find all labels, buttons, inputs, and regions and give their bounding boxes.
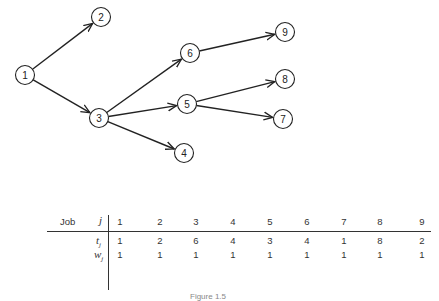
w-value-cell: 1 (186, 249, 206, 260)
svg-text:2: 2 (98, 12, 104, 23)
node-4: 4 (175, 144, 194, 163)
node-8: 8 (276, 70, 295, 89)
t-value-cell: 2 (150, 235, 170, 246)
t-value-cell: 4 (297, 235, 317, 246)
job-label: Job (60, 216, 75, 227)
figure-caption: Figure 1.5 (190, 292, 226, 301)
t-value-cell: 6 (186, 235, 206, 246)
edge-3-to-5 (108, 106, 176, 117)
job-number-cell: 5 (260, 216, 280, 227)
w-value-cell: 1 (412, 249, 432, 260)
svg-text:6: 6 (187, 48, 193, 59)
svg-text:8: 8 (282, 74, 288, 85)
job-number-cell: 6 (297, 216, 317, 227)
w-value-cell: 1 (260, 249, 280, 260)
precedence-graph: 123456789 (0, 0, 439, 200)
job-number-cell: 1 (110, 216, 130, 227)
node-6: 6 (181, 44, 200, 63)
table-vertical-rule (108, 215, 109, 290)
w-value-cell: 1 (370, 249, 390, 260)
edge-1-to-2 (33, 23, 93, 69)
t-row-label: tj (96, 234, 101, 249)
node-9: 9 (276, 23, 295, 42)
job-number-cell: 2 (150, 216, 170, 227)
edge-3-to-4 (108, 122, 175, 149)
w-value-cell: 1 (297, 249, 317, 260)
edge-5-to-7 (196, 105, 272, 117)
svg-text:1: 1 (22, 70, 28, 81)
t-value-cell: 2 (412, 235, 432, 246)
svg-text:5: 5 (184, 99, 190, 110)
job-number-cell: 4 (223, 216, 243, 227)
w-row-label: wj (94, 248, 103, 263)
node-2: 2 (92, 8, 111, 27)
job-number-cell: 8 (370, 216, 390, 227)
node-1: 1 (16, 66, 35, 85)
j-header: j (99, 214, 102, 226)
t-value-cell: 1 (334, 235, 354, 246)
edge-3-to-6 (107, 59, 182, 112)
t-value-cell: 3 (260, 235, 280, 246)
edge-6-to-9 (199, 34, 274, 51)
w-value-cell: 1 (223, 249, 243, 260)
w-value-cell: 1 (334, 249, 354, 260)
svg-text:7: 7 (280, 114, 286, 125)
w-value-cell: 1 (110, 249, 130, 260)
job-number-cell: 7 (334, 216, 354, 227)
t-value-cell: 4 (223, 235, 243, 246)
edge-5-to-8 (196, 82, 275, 102)
job-number-cell: 9 (412, 216, 432, 227)
node-5: 5 (178, 95, 197, 114)
node-3: 3 (90, 109, 109, 128)
t-value-cell: 1 (110, 235, 130, 246)
t-value-cell: 8 (370, 235, 390, 246)
edge-1-to-3 (33, 80, 90, 113)
node-7: 7 (274, 110, 293, 129)
job-number-cell: 3 (186, 216, 206, 227)
w-value-cell: 1 (150, 249, 170, 260)
svg-text:3: 3 (96, 113, 102, 124)
table-horizontal-rule (47, 231, 431, 232)
svg-text:9: 9 (282, 27, 288, 38)
svg-text:4: 4 (181, 148, 187, 159)
